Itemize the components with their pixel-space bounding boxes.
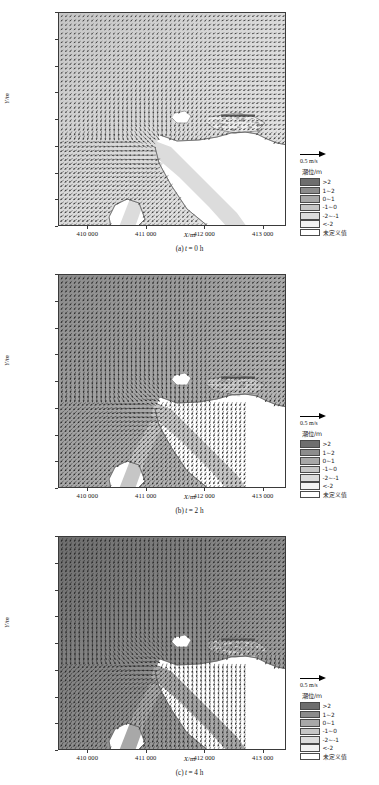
legend-entry: 1~2 (300, 186, 374, 194)
legend-entry: >2 (300, 440, 374, 448)
y-tick-mark (55, 536, 58, 537)
legend-entry-label: -2~-1 (323, 737, 339, 743)
legend-entry-label: >2 (323, 703, 332, 709)
legend-entry-label: 未定义值 (323, 228, 347, 237)
legend-swatch (300, 474, 320, 482)
x-tick-mark (263, 750, 264, 753)
panel-b: Y/m 4 444 0004 443 5004 443 0004 442 500… (0, 262, 379, 524)
y-tick-mark (55, 697, 58, 698)
legend-swatch (300, 702, 320, 710)
x-tick-mark (146, 750, 147, 753)
legend-entry-label: <-2 (323, 221, 334, 227)
legend-title: 潮位/m (302, 429, 374, 438)
legend-entry: 未定义值 (300, 490, 374, 498)
legend-entry: 0~1 (300, 195, 374, 203)
y-tick-mark (55, 461, 58, 462)
legend-swatch (300, 229, 320, 237)
legend-entry-label: -2~-1 (323, 213, 339, 219)
y-tick-mark (55, 563, 58, 564)
y-tick-mark (55, 488, 58, 489)
legend-c: 0.5 m/s 潮位/m >21~20~1-1~0-2~-1<-2未定义值 (300, 674, 374, 761)
x-tick-mark (204, 750, 205, 753)
legend-swatch (300, 440, 320, 448)
legend-entry: -1~0 (300, 465, 374, 473)
x-tick-mark (263, 488, 264, 491)
legend-entry-label: >2 (323, 179, 332, 185)
y-tick-mark (55, 328, 58, 329)
legend-swatch (300, 178, 320, 186)
map-canvas-b (59, 275, 286, 488)
velocity-scale-arrow-icon (300, 150, 326, 158)
y-tick-mark (55, 408, 58, 409)
y-axis-title-b: Y/m (3, 355, 11, 366)
legend-entry: -2~-1 (300, 736, 374, 744)
y-tick-mark (55, 119, 58, 120)
legend-title: 潮位/m (302, 691, 374, 700)
legend-entries: >21~20~1-1~0-2~-1<-2未定义值 (300, 702, 374, 761)
y-tick-mark (55, 616, 58, 617)
legend-entry-label: -1~0 (323, 466, 337, 472)
legend-swatch (300, 204, 320, 212)
legend-entry: >2 (300, 702, 374, 710)
velocity-scale-label: 0.5 m/s (300, 682, 374, 688)
velocity-scale-label: 0.5 m/s (300, 158, 374, 164)
plot-area-b: 4 444 0004 443 5004 443 0004 442 5004 44… (58, 274, 286, 488)
legend-swatch (300, 736, 320, 744)
legend-entry: -1~0 (300, 727, 374, 735)
y-tick-mark (55, 670, 58, 671)
velocity-scale-label: 0.5 m/s (300, 420, 374, 426)
velocity-scale-arrow-icon (300, 412, 326, 420)
figure-tidal-vector-fields: Y/m 4 444 0004 443 5004 443 0004 442 500… (0, 0, 379, 785)
caption-c: (c) t = 4 h (0, 769, 379, 777)
y-tick-mark (55, 274, 58, 275)
x-tick-mark (87, 226, 88, 229)
panel-a: Y/m 4 444 0004 443 5004 443 0004 442 500… (0, 0, 379, 262)
y-axis-title-c: Y/m (3, 617, 11, 628)
map-canvas-c (59, 537, 286, 750)
legend-a: 0.5 m/s 潮位/m >21~20~1-1~0-2~-1<-2未定义值 (300, 150, 374, 237)
legend-swatch (300, 212, 320, 220)
y-tick-mark (55, 66, 58, 67)
legend-swatch (300, 187, 320, 195)
x-tick-mark (204, 488, 205, 491)
y-tick-mark (55, 381, 58, 382)
y-tick-mark (55, 92, 58, 93)
y-tick-mark (55, 12, 58, 13)
legend-entry: 1~2 (300, 710, 374, 718)
legend-swatch (300, 195, 320, 203)
legend-entry-label: 0~1 (323, 196, 335, 202)
plot-frame-c (58, 536, 286, 750)
legend-entry-label: 未定义值 (323, 752, 347, 761)
legend-swatch (300, 711, 320, 719)
legend-swatch (300, 719, 320, 727)
legend-swatch (300, 753, 320, 761)
plot-area-a: 4 444 0004 443 5004 443 0004 442 5004 44… (58, 12, 286, 226)
legend-entry-label: 1~2 (323, 188, 335, 194)
legend-entries: >21~20~1-1~0-2~-1<-2未定义值 (300, 178, 374, 237)
plot-area-c: 4 444 0004 443 5004 443 0004 442 5004 44… (58, 536, 286, 750)
y-tick-mark (55, 39, 58, 40)
y-tick-mark (55, 435, 58, 436)
legend-entry: >2 (300, 178, 374, 186)
legend-entry-label: 0~1 (323, 458, 335, 464)
plot-frame-b (58, 274, 286, 488)
legend-swatch (300, 449, 320, 457)
y-tick-mark (55, 590, 58, 591)
y-tick-mark (55, 146, 58, 147)
x-tick-mark (146, 226, 147, 229)
legend-entry-label: >2 (323, 441, 332, 447)
legend-entry: -1~0 (300, 203, 374, 211)
x-tick-mark (87, 750, 88, 753)
x-tick-mark (263, 226, 264, 229)
y-tick-mark (55, 173, 58, 174)
legend-entry: 未定义值 (300, 228, 374, 236)
panel-c: Y/m 4 444 0004 443 5004 443 0004 442 500… (0, 524, 379, 785)
x-tick-mark (204, 226, 205, 229)
y-tick-mark (55, 723, 58, 724)
plot-frame-a (58, 12, 286, 226)
y-tick-mark (55, 226, 58, 227)
legend-swatch (300, 457, 320, 465)
legend-title: 潮位/m (302, 167, 374, 176)
caption-a: (a) t = 0 h (0, 245, 379, 253)
legend-entry-label: 0~1 (323, 720, 335, 726)
